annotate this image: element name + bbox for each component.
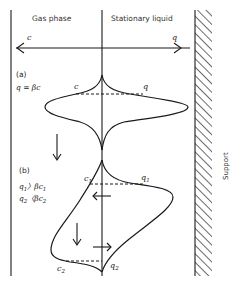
- peak-b-c2-label: c2: [57, 264, 65, 274]
- panel-a-equation: q = βc: [16, 83, 41, 92]
- equilibrium-peak-a: [45, 75, 188, 150]
- stationary-liquid-header: Stationary liquid: [111, 14, 173, 23]
- peak-b-q2-label: q2: [110, 261, 119, 271]
- non-equilibrium-peak-b: [51, 160, 173, 272]
- axis-label-c: c: [27, 33, 32, 42]
- axis-label-q: q: [172, 33, 177, 42]
- support-label: Support: [222, 152, 230, 180]
- flow-direction-arrow-inner: [73, 223, 81, 245]
- panel-b-tag: (b): [19, 166, 30, 175]
- gas-phase-header: Gas phase: [32, 14, 72, 23]
- peak-b-c1-label: c1: [84, 174, 92, 184]
- concentration-axis-arrow: [16, 43, 190, 53]
- peak-a-c-label: c: [74, 82, 79, 91]
- flow-direction-arrow: [53, 134, 61, 160]
- condition-2: q2〈βc2: [19, 194, 47, 204]
- panel-a-tag: (a): [16, 70, 27, 79]
- support-wall: [195, 10, 212, 276]
- peak-b-q1-label: q1: [141, 173, 150, 183]
- peak-a-q-label: q: [143, 82, 148, 91]
- condition-1: q1〉βc1: [19, 182, 46, 192]
- chromatography-diagram: Gas phase Stationary liquid c q (a) q = …: [0, 0, 237, 285]
